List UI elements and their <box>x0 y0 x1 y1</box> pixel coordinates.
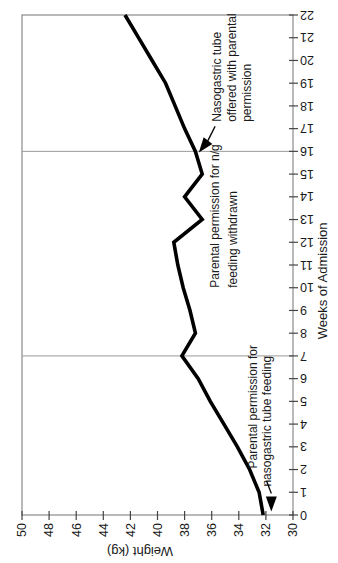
y-tick-label: 32 <box>259 523 273 537</box>
annotation-permission-given: nasogastric tube feeding <box>260 356 274 487</box>
x-tick-label: 13 <box>300 212 314 226</box>
x-tick-label: 1 <box>300 485 307 499</box>
x-tick-label: 10 <box>300 280 314 294</box>
x-tick-label: 8 <box>300 326 307 340</box>
annotation-permission-withdrawn: feeding withdrawn <box>226 191 240 288</box>
annotation-permission-withdrawn: Parental permission for n/g <box>208 144 222 287</box>
x-tick-label: 3 <box>300 439 307 453</box>
x-tick-label: 16 <box>300 144 314 158</box>
x-tick-label: 0 <box>300 508 307 522</box>
arrow-icon-permission-given <box>266 497 277 512</box>
y-tick-label: 50 <box>15 523 29 537</box>
chart-figure: 0123456789101112131415161718192021223032… <box>0 0 338 563</box>
x-tick-label: 20 <box>300 53 314 67</box>
x-axis-title: Weeks of Admission <box>315 223 330 340</box>
x-tick-label: 4 <box>300 417 307 431</box>
y-tick-label: 36 <box>205 523 219 537</box>
x-tick-label: 9 <box>300 303 307 317</box>
leader-line-tube-offered <box>208 126 215 141</box>
annotation-permission-given: Parental permission for <box>246 345 260 468</box>
x-tick-label: 17 <box>300 121 314 135</box>
x-tick-label: 11 <box>300 258 313 272</box>
x-tick-label: 12 <box>300 235 314 249</box>
annotation-tube-offered: offered with parental <box>225 13 239 122</box>
y-tick-label: 38 <box>178 523 192 537</box>
x-tick-label: 19 <box>300 76 314 90</box>
y-tick-label: 30 <box>286 523 300 537</box>
x-tick-label: 22 <box>300 8 314 22</box>
x-tick-label: 14 <box>300 189 314 203</box>
y-tick-label: 42 <box>124 523 138 537</box>
y-tick-label: 46 <box>70 523 84 537</box>
x-tick-label: 6 <box>300 371 307 385</box>
x-tick-label: 2 <box>300 462 307 476</box>
x-tick-label: 15 <box>300 167 314 181</box>
x-tick-label: 5 <box>300 394 307 408</box>
y-axis-title: Weight (kg) <box>107 544 173 559</box>
annotation-tube-offered: Nasogastric tube <box>210 31 224 121</box>
annotation-tube-offered: permission <box>240 64 254 122</box>
x-tick-label: 7 <box>300 349 307 363</box>
y-tick-label: 44 <box>97 523 111 537</box>
x-tick-label: 18 <box>300 99 314 113</box>
y-tick-label: 40 <box>151 523 165 537</box>
y-tick-label: 34 <box>232 523 246 537</box>
x-tick-label: 21 <box>300 30 314 44</box>
y-tick-label: 48 <box>42 523 56 537</box>
chart-canvas: 0123456789101112131415161718192021223032… <box>0 0 338 563</box>
